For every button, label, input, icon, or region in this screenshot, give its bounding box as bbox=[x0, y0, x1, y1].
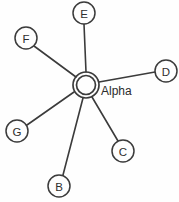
hub-inner-ring bbox=[77, 76, 96, 95]
node-label-c: C bbox=[119, 146, 127, 158]
diagram-canvas: EFDCBGAlpha bbox=[0, 0, 179, 202]
edge-alpha-to-g[interactable] bbox=[27, 92, 74, 125]
edge-alpha-to-d[interactable] bbox=[99, 72, 155, 82]
node-e[interactable]: E bbox=[73, 2, 95, 24]
node-label-b: B bbox=[55, 181, 63, 193]
node-c[interactable]: C bbox=[112, 140, 134, 162]
node-label-e: E bbox=[80, 8, 88, 20]
node-b[interactable]: B bbox=[48, 175, 70, 197]
node-f[interactable]: F bbox=[15, 27, 37, 49]
edge-alpha-to-b[interactable] bbox=[63, 98, 83, 175]
edge-group bbox=[27, 24, 155, 175]
hub-node-alpha[interactable] bbox=[73, 72, 99, 98]
edge-alpha-to-e[interactable] bbox=[84, 24, 86, 72]
node-label-f: F bbox=[22, 33, 29, 45]
node-g[interactable]: G bbox=[6, 120, 28, 142]
star-topology-diagram: EFDCBGAlpha bbox=[0, 0, 179, 202]
hub-label-alpha: Alpha bbox=[101, 84, 132, 98]
edge-alpha-to-c[interactable] bbox=[92, 97, 118, 141]
node-label-g: G bbox=[13, 126, 22, 138]
node-d[interactable]: D bbox=[155, 60, 177, 82]
edge-alpha-to-f[interactable] bbox=[34, 46, 76, 77]
node-group: EFDCBG bbox=[6, 2, 177, 197]
node-label-d: D bbox=[162, 66, 170, 78]
